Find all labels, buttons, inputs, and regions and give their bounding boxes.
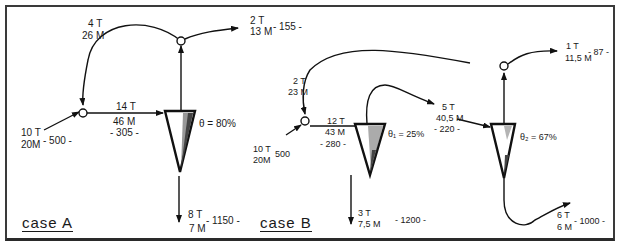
case-b-cyclone1-underflow-t: 3 T [358, 209, 371, 218]
case-b-cyclone1-underflow-v: - 1200 - [395, 216, 426, 225]
case-b-feed-m: 20M [253, 156, 271, 165]
case-a-overflow-v: - 155 - [273, 22, 302, 32]
case-b-cyclone1-overflow-t: 5 T [442, 103, 455, 112]
case-a-feed-v: - 500 - [43, 136, 72, 146]
case-a-overflow-m: 13 M [250, 27, 272, 37]
case-b-cyclone2-underflow-v: - 1000 - [574, 217, 605, 226]
case-a-feed-t: 10 T [21, 128, 41, 138]
case-b-recycle-t: 2 T [293, 77, 306, 86]
case-a-cyclone-feed-t: 14 T [116, 102, 136, 112]
case-b-cyclone1-overflow-m: 40,5 M [436, 114, 464, 123]
case-b-cyclone1-overflow-v: - 220 - [434, 125, 460, 134]
case-b-cyclone2-underflow-t: 6 T [557, 211, 570, 220]
case-a-cyclone-feed-m: 46 M [113, 117, 135, 127]
case-b-cyclone2-efficiency: θ₂ = 67% [520, 133, 557, 142]
case-b-recycle-m: 23 M [288, 88, 308, 97]
case-a-cyclone-feed-v: - 305 - [110, 128, 139, 138]
case-b-cyclone1-feed-m: 43 M [325, 128, 345, 137]
case-a-recycle-t: 4 T [88, 19, 102, 29]
case-b-cyclone1-feed-v: - 280 - [320, 140, 346, 149]
case-b-cyclone2-overflow-v: - 87 - [588, 48, 609, 57]
case-a-underflow-m: 7 M [189, 224, 206, 234]
case-a-recycle-m: 26 M [82, 31, 104, 41]
case-b-feed-t: 10 T [253, 145, 271, 154]
case-a-underflow-t: 8 T [188, 210, 202, 220]
case-b-title: case B [260, 215, 312, 232]
case-b-feed-v: 500 [275, 150, 290, 159]
case-b-cyclone2-underflow-m: 6 M [557, 223, 572, 232]
case-b-cyclone1-underflow-m: 7,5 M [358, 220, 381, 229]
case-a-underflow-v: - 1150 - [206, 216, 240, 226]
case-a-overflow-t: 2 T [250, 16, 264, 26]
case-b-cyclone2-overflow-t: 1 T [566, 42, 579, 51]
case-b-cyclone1-efficiency: θ₁ = 25% [388, 130, 424, 139]
case-b-cyclone1-feed-t: 12 T [327, 117, 345, 126]
case-a-efficiency: θ = 80% [199, 119, 236, 129]
case-a-feed-m: 20M [21, 140, 40, 150]
case-a-title: case A [22, 215, 73, 232]
